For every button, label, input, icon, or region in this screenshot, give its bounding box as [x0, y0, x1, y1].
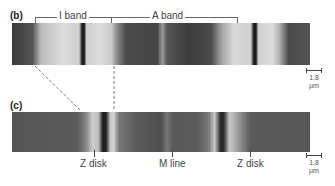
scale-value-c: 1.8: [302, 159, 326, 167]
z-disk-tick-right: [250, 150, 251, 157]
scale-label-c: 1.8 µm: [302, 159, 326, 175]
scale-bar-c: [306, 155, 322, 156]
m-line-label: M line: [159, 158, 186, 169]
panel-c-label: (c): [10, 100, 22, 111]
micrograph-c: [12, 112, 310, 152]
z-disk-tick-left: [94, 150, 95, 157]
z-disk-label-left: Z disk: [80, 158, 107, 169]
scale-unit-c: µm: [302, 167, 326, 175]
z-disk-label-right: Z disk: [237, 158, 264, 169]
m-line-tick: [172, 150, 173, 157]
